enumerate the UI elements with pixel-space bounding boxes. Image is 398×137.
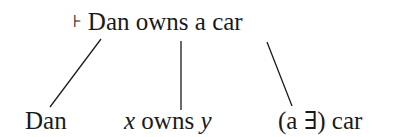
logic-decomposition-diagram: ⊦Dan owns a car Dan x owns y (a ∃) car (0, 0, 398, 137)
constituent-dan: Dan (25, 108, 67, 133)
variable-y: y (200, 107, 211, 134)
variable-x: x (124, 107, 135, 134)
constituent-owns-relation: x owns y (124, 108, 212, 133)
connector-car (267, 42, 292, 106)
owns-word: owns (135, 107, 200, 134)
root-sentence-text: Dan owns a car (88, 8, 243, 35)
constituent-exists-car: (a ∃) car (278, 108, 362, 133)
turnstile-symbol: ⊦ (73, 11, 82, 31)
root-sentence: ⊦Dan owns a car (73, 9, 243, 34)
connector-dan (50, 39, 101, 107)
